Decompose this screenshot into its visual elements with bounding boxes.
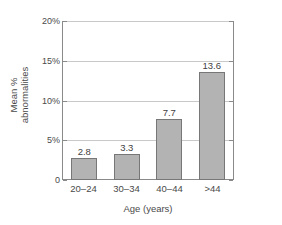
- bar-series: 2.83.37.713.6: [63, 21, 233, 180]
- bar-slot: 7.7: [148, 21, 191, 180]
- bar: 7.7: [156, 119, 182, 180]
- bar-value-label: 3.3: [120, 142, 133, 153]
- x-axis-tick-label: >44: [191, 183, 234, 194]
- x-axis-tick-label: 20–24: [62, 183, 105, 194]
- x-axis-tick-label: 40–44: [148, 183, 191, 194]
- y-axis-tick-label: 15%: [30, 56, 60, 66]
- y-axis-tick-mark-right: [229, 180, 233, 181]
- bar-slot: 13.6: [191, 21, 234, 180]
- bar-slot: 2.8: [63, 21, 106, 180]
- y-axis-tick-labels: 05%10%15%20%: [28, 0, 60, 225]
- bar: 3.3: [114, 154, 140, 180]
- y-axis-tick-label: 20%: [30, 16, 60, 26]
- y-axis-tick-label: 10%: [30, 96, 60, 106]
- bar: 13.6: [199, 72, 225, 180]
- y-axis-tick-label: 0: [30, 175, 60, 185]
- bar-chart-figure: Mean % abnormalities 05%10%15%20% 2.83.3…: [0, 0, 282, 225]
- bar-value-label: 2.8: [78, 146, 91, 157]
- y-axis-tick-label: 5%: [30, 135, 60, 145]
- x-axis-tick-labels: 20–2430–3440–44>44: [62, 183, 234, 194]
- bar-value-label: 7.7: [163, 107, 176, 118]
- plot-area: 2.83.37.713.6: [62, 21, 234, 180]
- bar-value-label: 13.6: [203, 60, 222, 71]
- x-axis-tick-label: 30–34: [105, 183, 148, 194]
- x-axis-title: Age (years): [62, 203, 234, 214]
- bar: 2.8: [71, 158, 97, 180]
- bar-slot: 3.3: [106, 21, 149, 180]
- y-axis-title-line-1: Mean %: [8, 78, 19, 113]
- y-axis-tick-mark: [63, 180, 67, 181]
